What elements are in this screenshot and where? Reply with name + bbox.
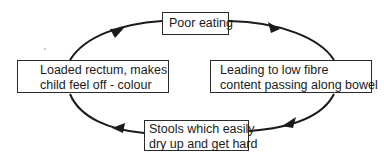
arrow-top-to-right: [229, 21, 334, 60]
node-text: Poor eating: [169, 16, 228, 31]
node-hard-stools: Stools which easily dry up and get hard: [144, 120, 249, 151]
node-text-line-1: Loaded rectum, makes: [40, 63, 168, 78]
node-text-line-2: dry up and get hard: [149, 137, 248, 152]
stray-mark: [44, 48, 46, 50]
node-text-line-1: Stools which easily: [149, 122, 248, 137]
arrowhead-right-bottom: [282, 117, 296, 128]
arrowhead-bottom-left: [112, 123, 125, 133]
arrowhead-left-top: [110, 28, 124, 38]
node-text-line-1: Leading to low fibre: [220, 63, 371, 78]
node-text-line-2: child feel off - colour: [40, 78, 168, 93]
node-text-line-2: content passing along bowel: [220, 78, 371, 93]
node-poor-eating: Poor eating: [162, 12, 229, 35]
arrow-left-to-top: [70, 21, 162, 60]
node-low-fibre: Leading to low fibre content passing alo…: [210, 60, 372, 93]
node-loaded-rectum: Loaded rectum, makes child feel off - co…: [17, 60, 169, 93]
arrow-bottom-to-left: [70, 94, 144, 133]
